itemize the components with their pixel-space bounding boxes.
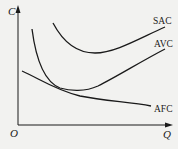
x-axis-arrow-icon bbox=[165, 123, 173, 128]
avc-curve bbox=[32, 29, 165, 90]
cost-curves-diagram: C O Q SAC AVC AFC bbox=[0, 0, 178, 149]
sac-label: SAC bbox=[153, 16, 171, 26]
origin-label: O bbox=[10, 127, 18, 139]
afc-label: AFC bbox=[154, 104, 172, 114]
afc-curve bbox=[22, 71, 151, 106]
y-axis-arrow-icon bbox=[16, 5, 21, 13]
sac-curve bbox=[53, 23, 165, 53]
avc-label: AVC bbox=[154, 39, 173, 49]
x-axis-label: Q bbox=[163, 128, 171, 140]
y-axis-label: C bbox=[8, 5, 16, 17]
